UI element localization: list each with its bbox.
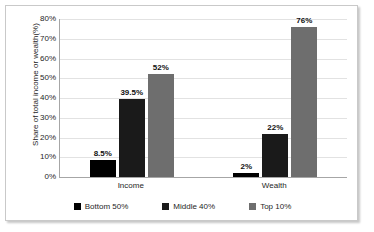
bar-value-label: 76% (285, 16, 323, 25)
bar-wealth-bottom-50[interactable] (233, 173, 259, 177)
legend-item-top-10[interactable]: Top 10% (249, 202, 291, 211)
bar-value-label: 39.5% (113, 88, 151, 97)
plot-area: 8.5%39.5%52%2%22%76% (59, 19, 347, 178)
x-axis-category-income: Income (59, 181, 203, 190)
chart-container: Share of total income or wealth(%) 0%10%… (5, 5, 358, 221)
y-axis-tick-labels: 0%10%20%30%40%50%60%70%80% (24, 19, 56, 177)
y-axis-tick-70%: 70% (24, 35, 56, 43)
x-axis-category-wealth: Wealth (203, 181, 347, 190)
y-axis-tick-30%: 30% (24, 114, 56, 122)
bar-wealth-middle-40[interactable] (262, 134, 288, 177)
legend-swatch-icon (74, 203, 81, 210)
y-axis-tick-0%: 0% (24, 173, 56, 181)
legend-swatch-icon (162, 203, 169, 210)
bar-value-label: 2% (227, 162, 265, 171)
y-axis-tick-60%: 60% (24, 55, 56, 63)
y-axis-tick-80%: 80% (24, 15, 56, 23)
y-axis-tick-20%: 20% (24, 134, 56, 142)
y-axis-tick-10%: 10% (24, 153, 56, 161)
bar-value-label: 52% (142, 63, 180, 72)
legend-label: Bottom 50% (85, 202, 129, 211)
legend-swatch-icon (249, 203, 256, 210)
bar-income-top-10[interactable] (148, 74, 174, 177)
bar-wealth-top-10[interactable] (291, 27, 317, 177)
bar-value-label: 22% (256, 123, 294, 132)
legend-item-middle-40[interactable]: Middle 40% (162, 202, 215, 211)
y-axis-tick-40%: 40% (24, 94, 56, 102)
bar-income-bottom-50[interactable] (90, 160, 116, 177)
y-axis-tick-50%: 50% (24, 74, 56, 82)
legend-item-bottom-50[interactable]: Bottom 50% (74, 202, 129, 211)
bar-income-middle-40[interactable] (119, 99, 145, 177)
bar-value-label: 8.5% (84, 149, 122, 158)
legend-label: Middle 40% (173, 202, 215, 211)
legend-label: Top 10% (260, 202, 291, 211)
chart-legend: Bottom 50%Middle 40%Top 10% (6, 202, 359, 211)
